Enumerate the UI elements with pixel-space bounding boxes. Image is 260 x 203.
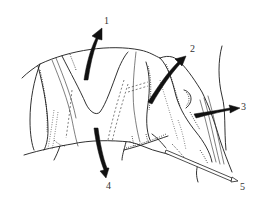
label-4: 4	[106, 181, 111, 191]
central-v-structure	[52, 52, 148, 146]
arrow-3	[194, 105, 240, 118]
arrow-2	[148, 56, 186, 104]
left-hatched-edge	[38, 54, 76, 150]
label-1: 1	[104, 16, 109, 26]
arrow-4	[94, 128, 109, 178]
anatomical-diagram	[0, 0, 260, 203]
right-hatched-edge	[146, 58, 212, 164]
label-5: 5	[240, 182, 245, 192]
label-2: 2	[190, 44, 195, 54]
arrow-5-probe	[165, 150, 238, 182]
arrow-1	[84, 28, 102, 80]
label-3: 3	[241, 102, 246, 112]
right-strap-lines	[200, 96, 224, 164]
